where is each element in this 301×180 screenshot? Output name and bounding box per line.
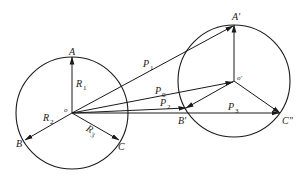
label-C-double-prime: C″ (282, 115, 294, 126)
svg-text:P: P (142, 58, 149, 69)
label-P1: P 1 (142, 58, 154, 72)
svg-text:2: 2 (167, 103, 171, 111)
vector-oprime-Bprime (186, 81, 234, 108)
svg-text:2: 2 (50, 118, 54, 126)
svg-text:1: 1 (150, 64, 154, 72)
position-vectors (72, 26, 279, 113)
svg-text:1: 1 (83, 84, 87, 92)
label-o: o (64, 106, 68, 114)
vector-diagram: A B C o R 1 R 2 R 3 A′ B′ C″ o′ P 1 P 0 (0, 0, 301, 180)
vector-R3 (72, 113, 119, 140)
svg-text:R: R (42, 112, 49, 123)
radius-vectors-left (25, 57, 119, 140)
vector-P0 (72, 82, 233, 113)
radius-vectors-right (186, 25, 280, 113)
svg-text:P: P (159, 97, 166, 108)
label-o-prime: o′ (237, 74, 243, 82)
svg-text:P: P (154, 85, 161, 96)
label-C: C (118, 141, 125, 152)
vector-oprime-Cprime (234, 81, 280, 113)
label-R1: R 1 (75, 78, 87, 92)
label-B: B (16, 138, 22, 149)
label-R3: R 3 (82, 122, 99, 140)
svg-text:R: R (75, 78, 82, 89)
label-R2: R 2 (42, 112, 54, 126)
label-A: A (68, 46, 76, 57)
label-A-prime: A′ (231, 11, 241, 22)
label-B-prime: B′ (178, 115, 187, 126)
svg-text:P: P (227, 101, 234, 112)
svg-text:3: 3 (235, 107, 239, 115)
